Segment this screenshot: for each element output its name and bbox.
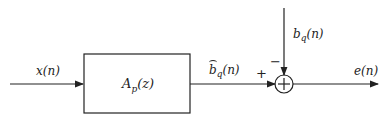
block-output-label: bq(n) bbox=[209, 63, 240, 79]
block-output-label-arg: (n) bbox=[222, 63, 239, 77]
reference-label-main: b bbox=[293, 27, 301, 41]
plus-sign: + bbox=[256, 66, 267, 81]
reference-input-label: bq(n) bbox=[293, 27, 324, 43]
block-label: Ap(z) bbox=[122, 76, 154, 94]
block-output-label-main: b bbox=[209, 63, 217, 77]
output-label: e(n) bbox=[354, 64, 378, 78]
block-label-main: A bbox=[122, 76, 131, 91]
block-label-arg: (z) bbox=[137, 76, 154, 91]
block-diagram-canvas bbox=[0, 0, 386, 122]
reference-label-arg: (n) bbox=[306, 27, 323, 41]
minus-sign: − bbox=[270, 54, 281, 69]
input-label: x(n) bbox=[36, 64, 60, 78]
